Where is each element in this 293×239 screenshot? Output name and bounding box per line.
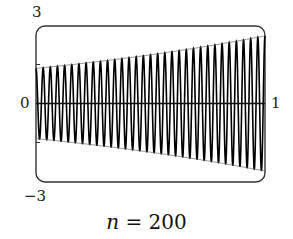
x-tick-label-left: 0 (20, 96, 30, 111)
chart-caption: n = 200 (0, 210, 293, 234)
y-tick-label-top: 3 (32, 5, 42, 20)
x-tick-label-right: 1 (271, 96, 281, 111)
y-tick-label-bottom: −3 (24, 189, 46, 204)
caption-variable: n (106, 210, 119, 234)
caption-value: = 200 (119, 210, 187, 234)
